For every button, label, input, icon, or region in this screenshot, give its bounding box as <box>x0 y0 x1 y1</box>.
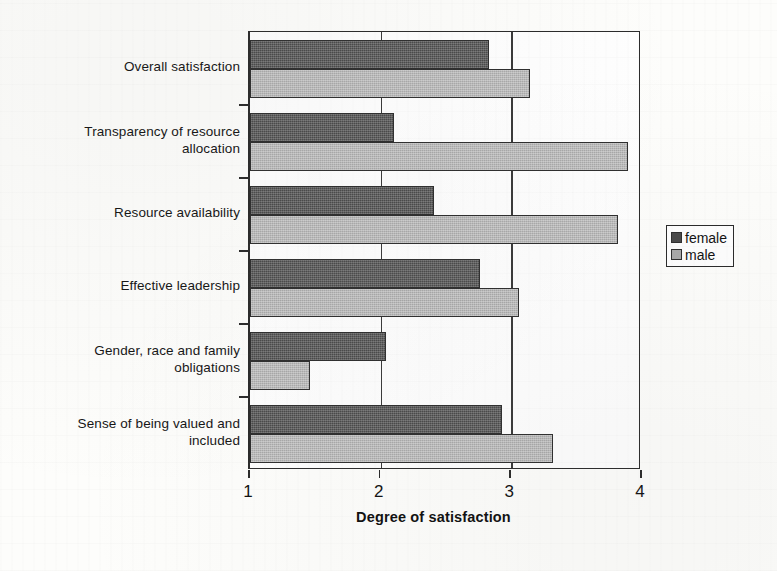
bar-male <box>250 434 553 463</box>
male-swatch-icon <box>671 249 682 260</box>
x-axis-title: Degree of satisfaction <box>0 509 777 525</box>
legend-item-male: male <box>671 246 727 263</box>
category-label-line: included <box>189 433 240 448</box>
x-axis-tick-mark <box>248 470 250 478</box>
bar-female <box>250 405 502 434</box>
bar-female <box>250 113 394 142</box>
y-axis-tick-mark <box>239 396 248 398</box>
category-label: Effective leadership <box>2 277 240 294</box>
bar-male <box>250 288 519 317</box>
bar-female <box>250 259 480 288</box>
bar-male <box>250 142 628 171</box>
x-axis-tick-mark <box>379 470 381 478</box>
category-label: Transparency of resourceallocation <box>2 123 240 157</box>
legend-item-label: female <box>685 231 727 245</box>
category-label: Gender, race and familyobligations <box>2 342 240 376</box>
category-label-line: Resource availability <box>114 205 240 220</box>
y-axis-tick-mark <box>239 250 248 252</box>
x-axis-tick-label: 4 <box>625 482 655 502</box>
bar-female <box>250 186 434 215</box>
category-label: Resource availability <box>2 204 240 221</box>
bar-male <box>250 215 618 244</box>
bar-female <box>250 40 489 69</box>
x-axis-tick-mark <box>509 470 511 478</box>
category-label-line: Gender, race and family <box>94 343 240 358</box>
bar-group <box>250 113 639 171</box>
category-label-line: Overall satisfaction <box>124 59 240 74</box>
y-axis-tick-mark <box>239 177 248 179</box>
category-label-line: obligations <box>174 360 240 375</box>
category-label: Sense of being valued andincluded <box>2 415 240 449</box>
bar-male <box>250 69 530 98</box>
category-label-line: Effective leadership <box>120 278 240 293</box>
category-label-line: allocation <box>182 141 240 156</box>
x-axis-tick-label: 1 <box>233 482 263 502</box>
category-label: Overall satisfaction <box>2 58 240 75</box>
y-axis-tick-mark <box>239 104 248 106</box>
category-label-line: Sense of being valued and <box>78 416 240 431</box>
bar-group <box>250 40 639 98</box>
satisfaction-bar-chart: Overall satisfactionTransparency of reso… <box>0 0 777 571</box>
plot-area <box>248 31 640 469</box>
x-axis-title-text: Degree of satisfaction <box>356 509 511 525</box>
bar-male <box>250 361 310 390</box>
x-axis-tick-mark <box>640 470 642 478</box>
bar-female <box>250 332 386 361</box>
chart-legend: femalemale <box>666 225 734 267</box>
legend-item-female: female <box>671 229 727 246</box>
bar-group <box>250 259 639 317</box>
legend-item-label: male <box>685 248 715 262</box>
x-axis-tick-label: 3 <box>494 482 524 502</box>
bar-group <box>250 332 639 390</box>
y-axis-tick-mark <box>239 323 248 325</box>
bar-group <box>250 405 639 463</box>
bar-group <box>250 186 639 244</box>
female-swatch-icon <box>671 232 682 243</box>
category-label-line: Transparency of resource <box>84 124 240 139</box>
x-axis-tick-label: 2 <box>364 482 394 502</box>
